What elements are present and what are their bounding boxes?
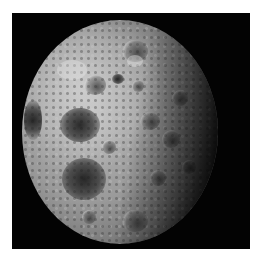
terminator-shadow [22,20,218,244]
moon-disc [22,20,218,244]
space-background [12,13,250,249]
